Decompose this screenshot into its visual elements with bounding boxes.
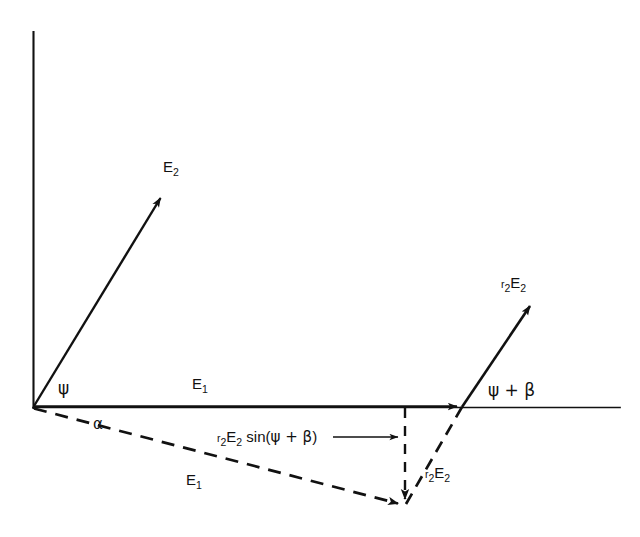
label-e1-dashed: E1 — [186, 471, 202, 491]
label-e2-vector: E2 — [163, 158, 179, 178]
label-e1-solid: E1 — [192, 375, 208, 395]
vector-r2e2-dashed — [406, 407, 462, 504]
vector-diagram-canvas: E2 E1 E1 r2E2 r2E2 ψ α ψ + β r2E2 sin(ψ … — [0, 0, 640, 537]
vector-diagram-figure: E2 E1 E1 r2E2 r2E2 ψ α ψ + β r2E2 sin(ψ … — [0, 0, 640, 537]
label-alpha-angle: α — [93, 415, 103, 433]
label-r2e2-solid: r2E2 — [501, 274, 526, 294]
label-psi-plus-beta-angle: ψ + β — [488, 380, 535, 400]
vector-e1-dashed — [34, 409, 398, 504]
label-projection-annotation: r2E2 sin(ψ + β) — [217, 428, 317, 448]
vector-e2 — [34, 198, 161, 406]
label-psi-angle: ψ — [58, 378, 69, 398]
